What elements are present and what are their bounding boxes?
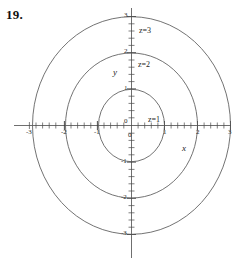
y-tick-label-pos3: 3 (124, 12, 128, 19)
x-tick-label-neg1: -1 (94, 129, 100, 136)
y-tick-label-pos2: 2 (124, 48, 128, 55)
contour-label-z2: z=2 (138, 61, 150, 69)
x-tick-label-pos1: 1 (163, 129, 167, 136)
y-tick-label-neg2: -2 (121, 194, 127, 201)
y-tick-label-zero: 0 (124, 118, 128, 125)
y-tick-label-neg3: -3 (121, 230, 127, 237)
x-tick-label-zero: 0 (128, 132, 132, 139)
x-tick-label-neg2: -2 (61, 129, 67, 136)
x-axis-label: x (182, 144, 186, 153)
contour-label-z1: z=1 (148, 116, 160, 124)
y-axis-label: y (113, 68, 117, 77)
x-tick-label-pos2: 2 (196, 129, 200, 136)
x-tick-label-neg3: -3 (26, 129, 32, 136)
y-tick-label-neg1: -1 (121, 158, 127, 165)
figure-19: 19. (0, 0, 232, 264)
x-tick-label-pos3: 3 (228, 129, 232, 136)
y-tick-label-pos1: 1 (124, 85, 128, 92)
contour-label-z3: z=3 (139, 27, 151, 35)
